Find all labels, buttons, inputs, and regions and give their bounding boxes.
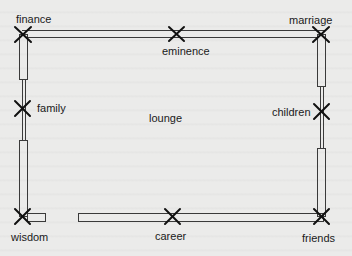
marker-children-icon (314, 104, 329, 119)
marker-marriage-icon (313, 27, 329, 42)
label-lounge: lounge (149, 112, 182, 124)
label-career: career (155, 230, 186, 242)
wall-right (318, 35, 326, 217)
floor-plan (0, 0, 352, 256)
wall-left (20, 35, 28, 217)
label-wisdom: wisdom (11, 231, 48, 243)
label-marriage: marriage (289, 14, 332, 26)
marker-finance-icon (15, 27, 31, 42)
label-eminence: eminence (162, 45, 210, 57)
label-family: family (37, 102, 66, 114)
label-friends: friends (302, 232, 335, 244)
label-children: children (272, 106, 311, 118)
label-finance: finance (16, 13, 51, 25)
marker-eminence-icon (169, 27, 184, 41)
